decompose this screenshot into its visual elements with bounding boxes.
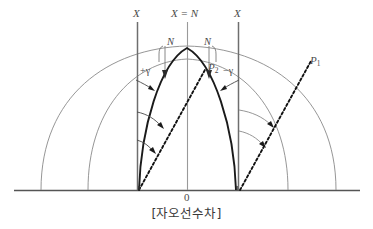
label-n-left: N bbox=[167, 37, 174, 48]
axis-label-right-x: X bbox=[234, 8, 241, 19]
angle-arrowhead-gamma-positive bbox=[148, 85, 155, 91]
label-p1-subscript: 1 bbox=[317, 59, 321, 68]
figure-caption: [자오선수차] bbox=[0, 203, 373, 222]
label-p1: P1 bbox=[310, 55, 320, 67]
axis-label-left-x: X bbox=[133, 8, 140, 19]
angle-arc-right-lower bbox=[239, 131, 263, 145]
label-n-right: N bbox=[204, 37, 211, 48]
gray-arc-outer-right bbox=[187, 59, 288, 190]
label-p2-subscript: 2 bbox=[215, 66, 219, 75]
label-gamma-negative: −γ bbox=[223, 66, 233, 76]
label-p2-letter: P bbox=[208, 61, 215, 73]
angle-arc-right-upper bbox=[239, 110, 271, 125]
dashed-ray-p2 bbox=[139, 68, 206, 190]
axis-label-center-x-equals-n: X = N bbox=[171, 8, 198, 19]
label-p2: P2 bbox=[208, 62, 218, 74]
label-p1-letter: P bbox=[310, 54, 317, 66]
label-gamma-positive: +γ bbox=[140, 66, 150, 76]
dashed-ray-p1 bbox=[240, 61, 311, 190]
origin-label: 0 bbox=[184, 192, 190, 203]
angle-arrowhead-gamma-negative bbox=[220, 85, 227, 91]
